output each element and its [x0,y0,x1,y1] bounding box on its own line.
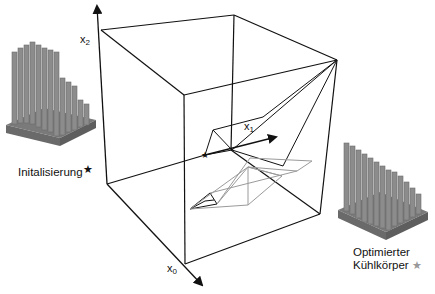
start-point-star-icon: ★ [201,150,209,160]
x0-axis-label: x0 [167,262,177,276]
optimized-label: Optimierter Kühlkörper ★ [353,246,422,272]
optimized-star-icon: ★ [412,259,422,271]
optimization-path-dark [190,60,337,209]
x2-axis-arrow [97,6,107,184]
x0-axis-arrow [107,184,202,285]
optimization-diagram: ★ x2 x1 x0 Initalisierung★ Optimierter K… [0,0,435,294]
optimized-heatsink-image [338,143,428,240]
optimization-path-gray [190,158,312,209]
cube-edges [101,15,337,264]
initial-label: Initalisierung★ [18,163,93,179]
x1-axis-label: x1 [244,120,254,134]
x2-axis-label: x2 [80,33,90,47]
initial-heatsink-image [6,42,96,146]
initial-star-icon: ★ [83,163,93,175]
